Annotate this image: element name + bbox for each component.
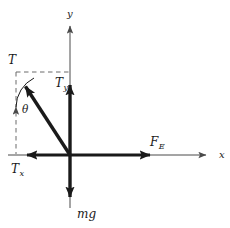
tension-label: T (8, 54, 16, 66)
weight-label: mg (77, 208, 96, 220)
force-diagram-canvas (0, 0, 230, 228)
tension-vector (26, 87, 71, 156)
x-axis-label: x (219, 150, 225, 160)
tension-y-component-label: Ty (55, 77, 68, 91)
y-axis-label: y (67, 9, 73, 19)
tension-x-component-label: Tx (11, 163, 24, 177)
theta-label: θ (22, 104, 28, 115)
axis-lines (8, 26, 206, 208)
force-diagram: x y T Ty Tx FE mg θ (0, 0, 230, 228)
electric-force-label: FE (150, 136, 165, 150)
force-vectors (26, 85, 151, 197)
